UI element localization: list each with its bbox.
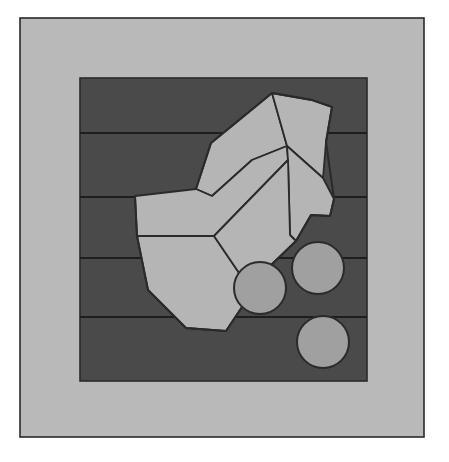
figure-root <box>0 0 449 462</box>
particle-left <box>234 262 286 314</box>
particle-upper-right <box>292 242 344 294</box>
grain-structure-figure <box>0 0 449 462</box>
particle-lower-right <box>297 316 349 368</box>
